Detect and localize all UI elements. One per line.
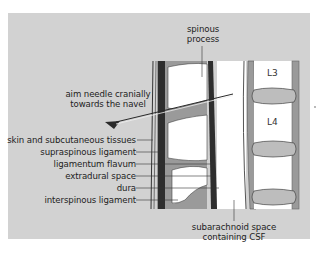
label-spinous-process: spinous process [178,24,228,44]
ligamentum-flavum [208,61,217,209]
intervertebral-disc-lower [252,189,296,205]
label-l3: L3 [267,68,278,78]
label-skin: skin and subcutaneous tissues [7,135,136,145]
spinous-process-middle [168,115,207,161]
subarachnoid-space [217,61,246,209]
label-l4: L4 [267,117,278,127]
label-needle-instruction: aim needle cranially towards the navel [58,89,158,109]
label-subarachnoid-space: subarachnoid space containing CSF [184,222,284,242]
needle-hub [105,121,120,129]
label-extradural-space: extradural space [65,171,136,181]
intervertebral-disc-middle [252,141,296,157]
label-supraspinous-ligament: supraspinous ligament [40,147,136,157]
label-dura: dura [117,183,136,193]
skin-line [151,61,153,209]
label-ligamentum-flavum: ligamentum flavum [54,159,136,169]
supraspinous-ligament [158,61,165,209]
anterior-longitudinal-ligament [292,61,299,209]
intervertebral-disc-upper [252,88,296,104]
label-interspinous-ligament: interspinous ligament [44,195,136,205]
